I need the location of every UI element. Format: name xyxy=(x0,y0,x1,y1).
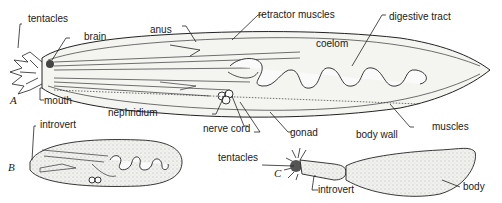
label-body: body xyxy=(463,181,485,192)
label-digestive-tract: digestive tract xyxy=(389,11,451,22)
label-gonad: gonad xyxy=(290,127,318,138)
panel-b: introvert B xyxy=(8,119,182,186)
body-c-shape xyxy=(346,148,476,196)
label-tentacles-c: tentacles xyxy=(218,152,258,163)
label-tentacles-a: tentacles xyxy=(28,13,68,24)
label-body-wall: body wall xyxy=(356,129,398,140)
label-nerve-cord: nerve cord xyxy=(203,123,250,134)
panel-label-c: C xyxy=(274,167,282,179)
panel-a: tentacles brain anus retractor muscles d… xyxy=(9,9,490,140)
label-introvert-b: introvert xyxy=(40,119,76,130)
anatomy-diagram: tentacles brain anus retractor muscles d… xyxy=(0,0,502,203)
panel-label-a: A xyxy=(9,94,17,106)
introvert-c-shape xyxy=(300,160,346,180)
label-muscles: muscles xyxy=(432,121,469,132)
brain-shape xyxy=(46,60,54,68)
label-anus: anus xyxy=(150,24,172,35)
label-coelom: coelom xyxy=(316,38,348,49)
label-nephridium: nephridium xyxy=(108,107,157,118)
tentacle-crown-icon xyxy=(10,52,42,94)
panel-label-b: B xyxy=(8,161,15,173)
label-mouth: mouth xyxy=(44,95,72,106)
label-introvert-c: introvert xyxy=(318,184,354,195)
label-brain: brain xyxy=(84,31,106,42)
panel-c: tentacles introvert body C xyxy=(218,148,485,196)
label-retractor-muscles: retractor muscles xyxy=(258,9,335,20)
